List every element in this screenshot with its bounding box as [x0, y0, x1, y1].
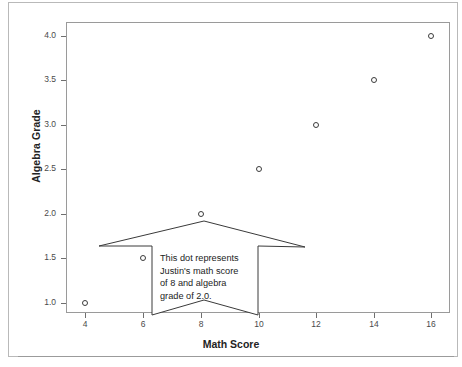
- x-tick-label-4: 4: [70, 320, 100, 329]
- y-tick-mark-2-5: [61, 169, 66, 170]
- data-point-6-1.5[interactable]: [140, 255, 146, 261]
- x-tick-mark-4: [85, 313, 86, 318]
- y-tick-label-2-0: 2.0: [22, 209, 56, 218]
- y-tick-label-4-0: 4.0: [22, 31, 56, 40]
- x-tick-label-12: 12: [301, 320, 331, 329]
- callout-line-3: of 8 and algebra: [160, 277, 256, 290]
- x-tick-mark-6: [143, 313, 144, 318]
- callout-text: This dot represents Justin's math score …: [160, 252, 256, 302]
- y-tick-mark-4-0: [61, 36, 66, 37]
- x-tick-mark-16: [431, 313, 432, 318]
- x-tick-mark-12: [316, 313, 317, 318]
- data-point-8-2.0[interactable]: [198, 211, 204, 217]
- x-tick-mark-10: [259, 313, 260, 318]
- y-tick-mark-3-5: [61, 80, 66, 81]
- y-tick-mark-1-0: [61, 303, 66, 304]
- y-tick-label-3-5: 3.5: [22, 75, 56, 84]
- footer-rule: [18, 356, 454, 357]
- data-point-12-3.0[interactable]: [313, 122, 319, 128]
- x-tick-label-8: 8: [186, 320, 216, 329]
- y-tick-label-1-0: 1.0: [22, 298, 56, 307]
- x-tick-mark-8: [201, 313, 202, 318]
- callout-line-4: grade of 2.0.: [160, 290, 256, 303]
- chart-page: Algebra Grade Math Score 4.0 3.5 3.0 2.5…: [0, 0, 462, 367]
- x-tick-mark-14: [374, 313, 375, 318]
- callout-line-2: Justin's math score: [160, 265, 256, 278]
- data-point-10-2.5[interactable]: [256, 166, 262, 172]
- data-point-16-4.0[interactable]: [428, 33, 434, 39]
- data-point-14-3.5[interactable]: [371, 77, 377, 83]
- x-tick-label-6: 6: [128, 320, 158, 329]
- x-tick-label-16: 16: [416, 320, 446, 329]
- y-tick-mark-3-0: [61, 125, 66, 126]
- x-axis-title: Math Score: [0, 338, 462, 350]
- y-tick-label-2-5: 2.5: [22, 164, 56, 173]
- y-tick-mark-2-0: [61, 214, 66, 215]
- y-tick-label-1-5: 1.5: [22, 253, 56, 262]
- data-point-4-1.0[interactable]: [82, 300, 88, 306]
- y-tick-label-3-0: 3.0: [22, 120, 56, 129]
- x-tick-label-14: 14: [359, 320, 389, 329]
- y-axis-title: Algebra Grade: [30, 86, 42, 206]
- callout-line-1: This dot represents: [160, 252, 256, 265]
- x-tick-label-10: 10: [244, 320, 274, 329]
- y-tick-mark-1-5: [61, 258, 66, 259]
